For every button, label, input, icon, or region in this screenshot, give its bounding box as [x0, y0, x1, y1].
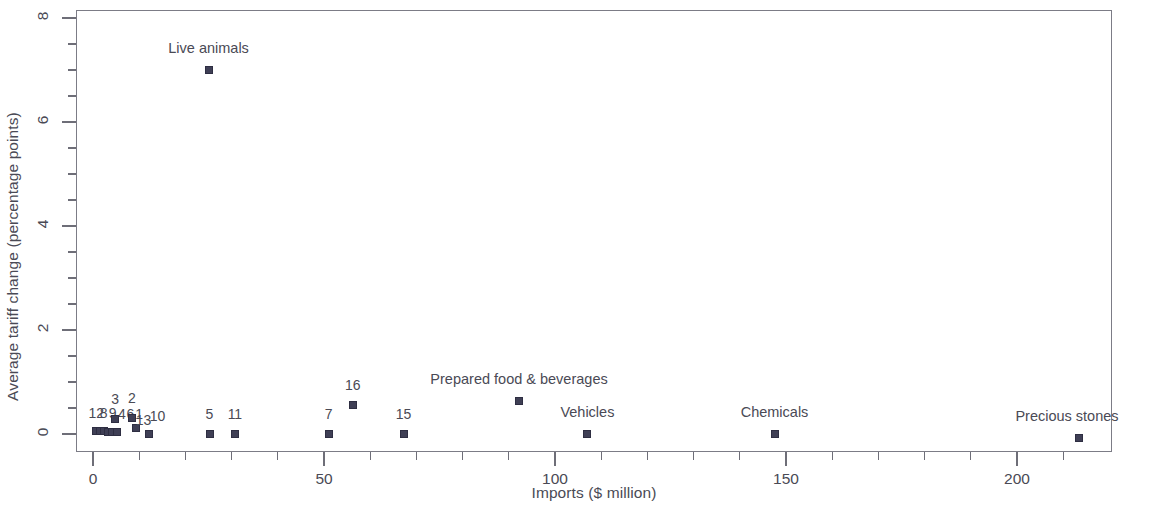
- x-minor-tick: [462, 452, 463, 460]
- x-minor-tick: [416, 452, 417, 460]
- x-tick-label-150: 150: [756, 470, 816, 488]
- y-tick-0: [62, 433, 76, 434]
- y-minor-tick: [68, 277, 76, 278]
- x-tick-label-200: 200: [987, 470, 1047, 488]
- y-tick-label-2: 2: [34, 315, 52, 341]
- scatter-chart-figure: Average tariff change (percentage points…: [0, 0, 1160, 513]
- y-minor-tick: [68, 381, 76, 382]
- x-tick-50: [323, 452, 324, 466]
- x-minor-tick: [647, 452, 648, 460]
- y-minor-tick: [68, 355, 76, 356]
- x-minor-tick: [601, 452, 602, 460]
- y-tick-2: [62, 329, 76, 330]
- data-point-marker: [771, 430, 779, 438]
- x-minor-tick: [739, 452, 740, 460]
- x-minor-tick: [924, 452, 925, 460]
- y-minor-tick: [68, 303, 76, 304]
- data-point-label: 2: [32, 390, 232, 406]
- data-point-label: 15: [304, 406, 504, 422]
- y-tick-6: [62, 121, 76, 122]
- x-minor-tick: [1063, 452, 1064, 460]
- x-minor-tick: [970, 452, 971, 460]
- data-point-label: Chemicals: [675, 404, 875, 420]
- x-minor-tick: [693, 452, 694, 460]
- data-point-marker: [400, 430, 408, 438]
- y-minor-tick: [68, 69, 76, 70]
- y-tick-label-6: 6: [34, 107, 52, 133]
- data-point-marker: [113, 428, 121, 436]
- x-minor-tick: [231, 452, 232, 460]
- data-point-marker: [583, 430, 591, 438]
- data-point-label: Live animals: [109, 40, 309, 56]
- y-minor-tick: [68, 43, 76, 44]
- plot-area: 128946132131051171615Live animalsPrepare…: [76, 10, 1112, 452]
- y-tick-label-8: 8: [34, 3, 52, 29]
- x-minor-tick: [277, 452, 278, 460]
- y-tick-8: [62, 17, 76, 18]
- data-point-marker: [205, 66, 213, 74]
- x-minor-tick: [832, 452, 833, 460]
- y-minor-tick: [68, 251, 76, 252]
- x-tick-label-50: 50: [294, 470, 354, 488]
- x-minor-tick: [878, 452, 879, 460]
- x-minor-tick: [185, 452, 186, 460]
- data-point-marker: [231, 430, 239, 438]
- data-point-label: Precious stones: [967, 408, 1160, 424]
- y-tick-4: [62, 225, 76, 226]
- x-tick-0: [92, 452, 93, 466]
- data-point-marker: [325, 430, 333, 438]
- y-axis-label: Average tariff change (percentage points…: [0, 0, 26, 513]
- x-tick-150: [785, 452, 786, 466]
- y-minor-tick: [68, 147, 76, 148]
- data-point-marker: [145, 430, 153, 438]
- x-axis-label: Imports ($ million): [76, 484, 1112, 502]
- y-minor-tick: [68, 199, 76, 200]
- x-minor-tick: [139, 452, 140, 460]
- x-tick-100: [554, 452, 555, 466]
- data-point-label: Vehicles: [487, 404, 687, 420]
- x-minor-tick: [370, 452, 371, 460]
- x-tick-label-100: 100: [525, 470, 585, 488]
- data-point-marker: [206, 430, 214, 438]
- y-tick-label-4: 4: [34, 211, 52, 237]
- y-minor-tick: [68, 95, 76, 96]
- x-tick-200: [1016, 452, 1017, 466]
- x-minor-tick: [508, 452, 509, 460]
- y-minor-tick: [68, 173, 76, 174]
- data-point-label: Prepared food & beverages: [419, 371, 619, 387]
- x-tick-label-0: 0: [63, 470, 123, 488]
- data-point-marker: [1075, 434, 1083, 442]
